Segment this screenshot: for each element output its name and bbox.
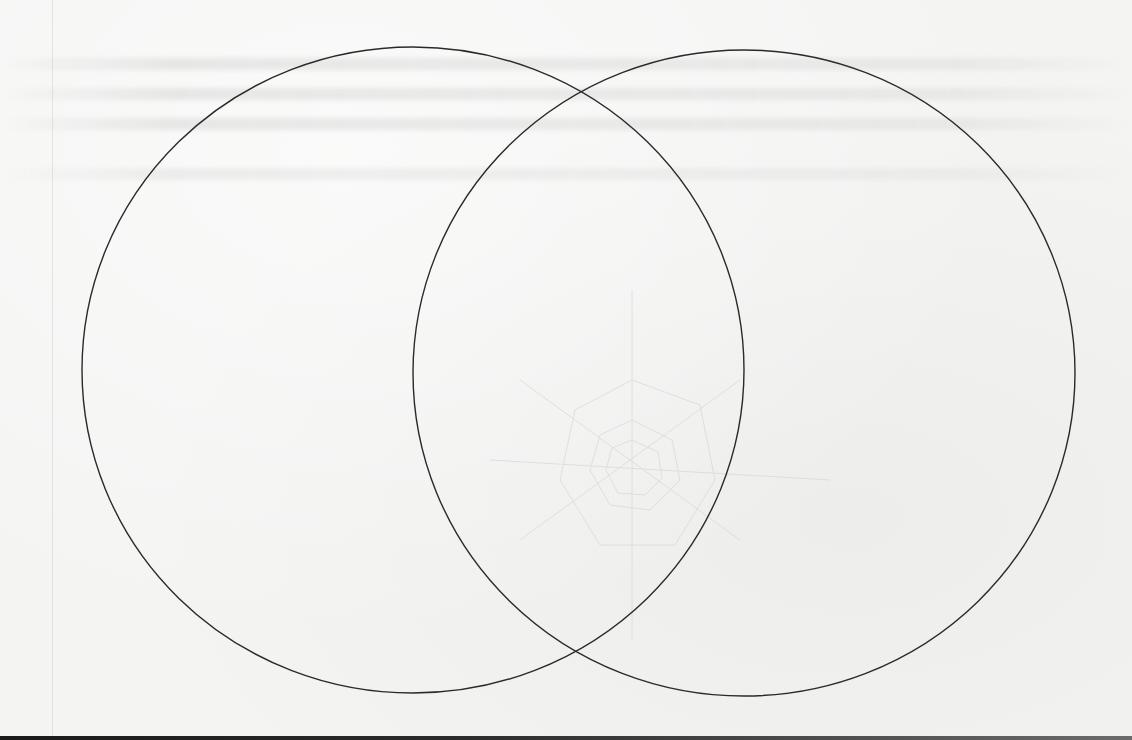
worksheet-page (0, 0, 1132, 740)
scan-bottom-edge (0, 736, 1132, 740)
venn-diagram (0, 0, 1132, 740)
bleed-through-sketch (490, 290, 830, 640)
